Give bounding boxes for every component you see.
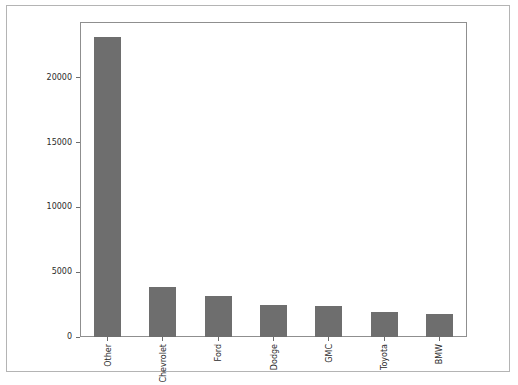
x-tick-mark xyxy=(328,337,329,341)
x-tick-mark xyxy=(107,337,108,341)
x-tick-label-text: Dodge xyxy=(270,344,279,370)
y-tick-label: 0 xyxy=(67,331,72,342)
x-tick-label-text: Ford xyxy=(214,344,223,361)
y-tick-label: 20000 xyxy=(47,72,72,83)
bar-ford xyxy=(205,296,232,337)
bar-gmc xyxy=(315,306,342,337)
bar-dodge xyxy=(260,305,287,337)
y-tick-label: 10000 xyxy=(47,201,72,212)
x-tick-label-text: Other xyxy=(104,344,113,367)
bar-toyota xyxy=(371,312,398,337)
x-tick-label-text: Chevrolet xyxy=(159,344,168,383)
x-tick-label-text: Toyota xyxy=(380,344,389,370)
bar-chevrolet xyxy=(149,287,176,337)
bars-layer xyxy=(80,22,467,337)
x-tick-label-text: BMW xyxy=(435,344,444,364)
x-tick-mark xyxy=(384,337,385,341)
x-tick-mark xyxy=(218,337,219,341)
figure-card: 05000100001500020000 OtherChevroletFordD… xyxy=(6,5,510,372)
bar-other xyxy=(94,37,121,337)
bar-bmw xyxy=(426,314,453,337)
x-tick-mark xyxy=(273,337,274,341)
y-tick-label: 5000 xyxy=(52,266,72,277)
x-tick-label-text: GMC xyxy=(325,344,334,363)
x-tick-mark xyxy=(162,337,163,341)
x-tick-mark xyxy=(439,337,440,341)
y-tick-label: 15000 xyxy=(47,137,72,148)
